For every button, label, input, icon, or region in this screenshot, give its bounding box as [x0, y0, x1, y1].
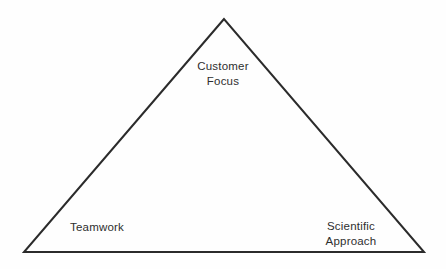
triangle-outline	[24, 19, 424, 252]
vertex-label-teamwork: Teamwork	[70, 220, 140, 235]
vertex-label-customer-focus: Customer Focus	[191, 59, 255, 88]
vertex-label-scientific-approach: Scientific Approach	[316, 219, 386, 248]
triangle-diagram: Customer Focus Teamwork Scientific Appro…	[0, 0, 446, 269]
